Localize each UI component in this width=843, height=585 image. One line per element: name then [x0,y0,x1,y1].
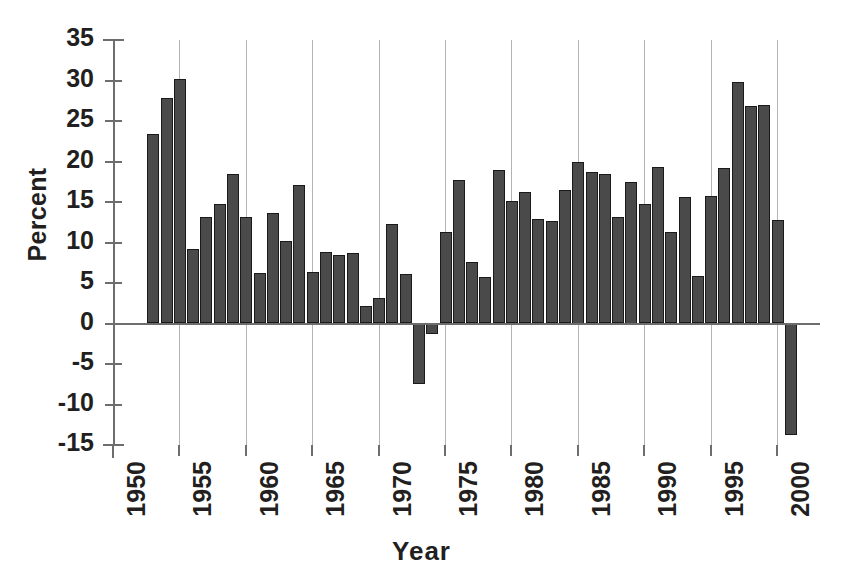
bar [200,217,212,323]
x-tick-label: 1955 [190,461,215,539]
bar [758,105,770,324]
bar [267,213,279,323]
x-tick [643,445,645,456]
x-axis-title: Year [0,536,843,567]
x-tick [444,445,446,456]
bar [506,201,518,323]
y-tick-label: 20 [0,147,94,172]
y-tick-label: -15 [0,430,94,455]
x-tick [178,445,180,456]
x-tick-label: 1985 [589,461,614,539]
y-tick-label: 5 [0,268,94,293]
x-tick [710,445,712,456]
x-tick-label: 1965 [323,461,348,539]
bar-chart: Percent 35302520151050-5-10-15 195019551… [0,0,843,585]
x-tick [311,445,313,456]
y-tick-label: 15 [0,187,94,212]
x-tick-label: 1950 [124,461,149,539]
y-tick-label: -5 [0,349,94,374]
y-tick-label: 0 [0,309,94,334]
bar [400,274,412,323]
x-tick-label: 1975 [456,461,481,539]
bar [519,192,531,323]
gridline-1965 [312,40,313,445]
bar [426,324,438,335]
x-tick [510,445,512,456]
x-tick-label: 2000 [788,461,813,539]
bar [227,174,239,324]
bar [413,324,425,385]
y-tick-label: 35 [0,25,94,50]
bar [785,324,797,436]
bar [147,134,159,324]
bar [280,241,292,324]
bar [546,221,558,323]
x-tick-label: 1980 [522,461,547,539]
bar [639,204,651,324]
bar [625,182,637,324]
x-tick-label: 1990 [655,461,680,539]
bar [360,306,372,324]
bar [532,219,544,323]
bar [479,277,491,324]
x-tick-label: 1960 [257,461,282,539]
bar [718,168,730,324]
x-tick-label: 1995 [722,461,747,539]
bar [572,162,584,324]
y-tick-label: 25 [0,106,94,131]
bar [307,272,319,323]
zero-baseline [113,323,820,325]
bar [679,197,691,323]
bar [772,220,784,324]
y-tick-label: 30 [0,66,94,91]
bar [373,298,385,323]
bar [440,232,452,324]
bar [174,79,186,324]
x-tick-label: 1970 [390,461,415,539]
bar [466,262,478,324]
bar [347,253,359,323]
x-tick [378,445,380,456]
bar [586,172,598,323]
bar [453,180,465,323]
bar [254,273,266,323]
bar [599,174,611,323]
gridline-1970 [379,40,380,445]
bar [320,252,332,323]
plot-area [113,40,835,445]
y-tick-label: 10 [0,228,94,253]
bar [214,204,226,324]
bar [161,98,173,323]
y-tick-label: -10 [0,390,94,415]
bar [187,249,199,324]
bar [293,185,305,324]
bar [652,167,664,323]
bar [705,196,717,324]
bar [665,232,677,324]
bar [240,217,252,323]
x-tick [245,445,247,456]
x-tick [776,445,778,456]
bar [493,170,505,324]
x-tick [577,445,579,456]
bar [692,276,704,324]
bar [333,255,345,323]
bar [732,82,744,323]
bar [559,190,571,324]
x-tick [112,445,114,458]
bar [745,106,757,323]
bar [386,224,398,324]
bar [612,217,624,324]
